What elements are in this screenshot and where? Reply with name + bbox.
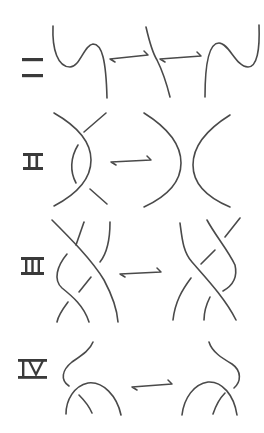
move-2 — [23, 113, 230, 207]
move-2-left-under-top — [84, 113, 106, 132]
move-4-right-arc — [182, 382, 237, 415]
move-1-label — [22, 58, 43, 77]
move-3-right-strand-c-top — [225, 218, 240, 237]
move-1-middle-strand — [146, 27, 170, 97]
move-4-right-strand-top — [209, 342, 239, 388]
move-4-arrow-icon — [132, 380, 172, 390]
move-3-right-strand-c-bottom — [173, 278, 191, 320]
move-4-left-strand-top — [63, 342, 93, 386]
move-3-left-over-strand — [52, 220, 118, 322]
move-4-left-arc — [66, 383, 121, 415]
move-4-right-under-segment — [213, 393, 225, 414]
move-3 — [21, 218, 240, 322]
move-4-left-under-segment — [79, 395, 92, 413]
move-1-right-strand — [205, 25, 259, 97]
move-2-right-strand-b — [193, 115, 230, 207]
move-3-right-strand-b-bottom — [204, 297, 210, 320]
move-4 — [18, 342, 239, 415]
reidemeister-moves-diagram — [0, 0, 264, 433]
move-3-right-strand-b — [207, 220, 236, 291]
move-1-arrow-right-icon — [160, 52, 201, 62]
move-3-label — [21, 257, 44, 275]
move-3-left-strand-b-top — [76, 222, 84, 245]
move-1-arrow-left-icon — [110, 51, 148, 62]
move-3-left-strand-c-bottom — [57, 302, 68, 322]
move-3-left-strand-c-mid — [79, 277, 91, 292]
move-2-left-under-bottom — [90, 189, 107, 204]
move-3-left-strand-c-top — [100, 222, 110, 262]
move-1 — [22, 25, 259, 98]
move-3-right-over-strand — [180, 223, 236, 320]
move-2-label — [23, 153, 43, 170]
move-3-arrow-icon — [120, 268, 161, 277]
move-1-left-strand — [53, 26, 107, 98]
move-2-left-under-middle — [72, 145, 78, 183]
move-3-right-strand-c-mid — [201, 250, 215, 264]
move-4-label — [18, 359, 47, 379]
move-2-arrow-icon — [111, 156, 151, 165]
